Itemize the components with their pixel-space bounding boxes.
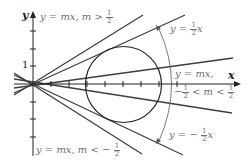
- y-axis-arrow-icon: [30, 11, 36, 18]
- label-m-greater-half: y = mx, m > 12: [40, 10, 113, 25]
- x-axis-arrow-icon: [234, 81, 241, 87]
- x-axis-label: x: [228, 70, 235, 81]
- y-axis-label: y: [22, 10, 28, 21]
- label-half-negative: y = − 12x: [169, 128, 213, 143]
- label-middle-condition: −12 < m < 12: [174, 85, 234, 100]
- label-half-positive: y = 12x: [170, 22, 203, 37]
- y-tick-label-1: 1: [22, 60, 28, 70]
- label-middle-line: y = mx,: [175, 69, 214, 79]
- angle-arc: [159, 29, 172, 141]
- label-m-less-neg-half: y = mx, m < − 12: [36, 143, 120, 158]
